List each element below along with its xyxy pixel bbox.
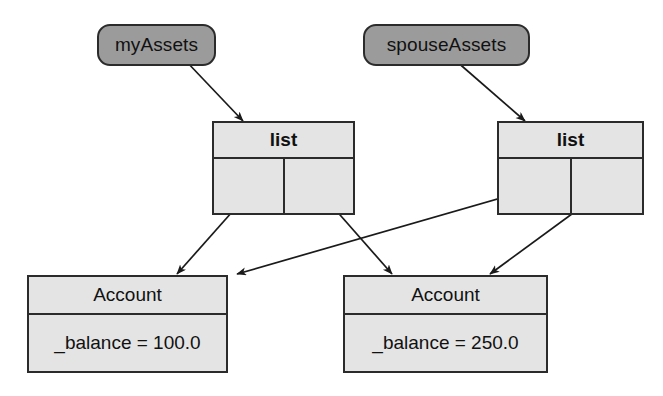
- object-node-account-left[interactable]: Account _balance = 100.0: [27, 275, 228, 373]
- object-node-list-right[interactable]: list: [497, 121, 644, 215]
- object-diagram-canvas: myAssets spouseAssets list list Account …: [0, 0, 663, 396]
- list-slot-1[interactable]: [570, 159, 643, 213]
- object-node-list-left[interactable]: list: [212, 121, 355, 215]
- attribute-text: _balance = 100.0: [54, 332, 200, 354]
- object-title: Account: [93, 284, 162, 306]
- object-header: Account: [29, 277, 226, 315]
- object-header: list: [499, 123, 642, 159]
- object-title: Account: [411, 284, 480, 306]
- object-attribute-row: _balance = 250.0: [345, 315, 546, 371]
- list-slot-0[interactable]: [214, 159, 283, 213]
- variable-node-myassets[interactable]: myAssets: [97, 24, 216, 66]
- list-slot-row: [499, 159, 642, 213]
- object-node-account-right[interactable]: Account _balance = 250.0: [343, 275, 548, 373]
- myAssets-to-list-left: [185, 60, 243, 121]
- variable-node-spouseassets[interactable]: spouseAssets: [363, 24, 530, 66]
- object-header: list: [214, 123, 353, 159]
- spouseAssets-to-list-right: [455, 60, 525, 121]
- object-attribute-row: _balance = 100.0: [29, 315, 226, 371]
- variable-label: myAssets: [115, 34, 198, 56]
- list-slot-0[interactable]: [499, 159, 570, 213]
- variable-label: spouseAssets: [387, 34, 507, 56]
- object-title: list: [557, 129, 584, 151]
- list-slot-row: [214, 159, 353, 213]
- list-slot-1[interactable]: [283, 159, 354, 213]
- object-header: Account: [345, 277, 546, 315]
- object-title: list: [270, 129, 297, 151]
- attribute-text: _balance = 250.0: [372, 332, 518, 354]
